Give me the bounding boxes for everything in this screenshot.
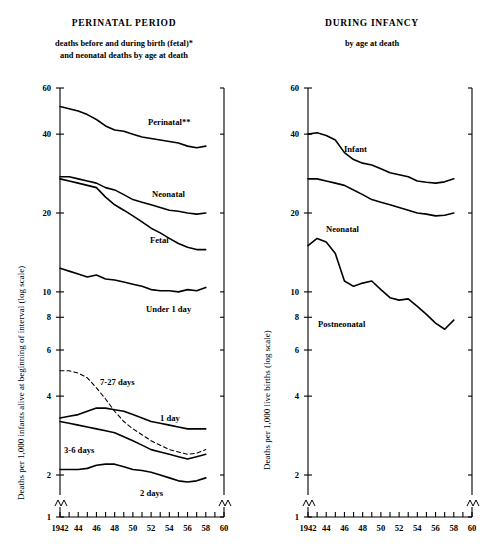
y-tick-label: 10	[290, 287, 299, 297]
y-tick-label: 2	[47, 470, 51, 480]
series-label: Neonatal	[326, 224, 360, 234]
y-tick-label: 6	[47, 345, 52, 355]
series-label: 7-27 days	[100, 377, 135, 387]
x-tick-label: 52	[395, 523, 404, 533]
x-tick-label: 48	[110, 523, 119, 533]
x-tick-label: 44	[74, 523, 83, 533]
y-tick-label: 1	[295, 512, 299, 522]
x-tick-label: 48	[358, 523, 367, 533]
series-line	[308, 238, 454, 329]
series-label: 3-6 days	[64, 445, 95, 455]
series-label: 1 day	[160, 413, 181, 423]
x-tick-label: 54	[413, 523, 422, 533]
y-tick-label: 2	[295, 470, 299, 480]
x-tick-label: 50	[129, 523, 138, 533]
x-tick-label: 58	[201, 523, 210, 533]
y-tick-label: 4	[47, 391, 52, 401]
series-label: 2 days	[140, 488, 164, 498]
series-line	[308, 133, 454, 183]
x-tick-label: 1942	[299, 523, 316, 533]
x-tick-label: 54	[165, 523, 174, 533]
x-tick-label: 56	[431, 523, 440, 533]
y-tick-label: 20	[290, 208, 299, 218]
y-tick-label: 10	[42, 287, 51, 297]
series-line	[60, 106, 206, 147]
chart-svg: 60402010864211942444648505254565860Perin…	[0, 0, 248, 558]
series-label: Infant	[344, 144, 367, 154]
series-line	[60, 268, 206, 292]
plot-area-infancy: 60402010864211942444648505254565860Infan…	[248, 0, 496, 558]
y-tick-label: 8	[47, 312, 52, 322]
x-tick-label: 50	[377, 523, 386, 533]
plot-area-perinatal: 60402010864211942444648505254565860Perin…	[0, 0, 248, 558]
series-label: Fetal	[150, 235, 169, 245]
axis-break-squiggle	[55, 500, 67, 506]
panel-perinatal: PERINATAL PERIOD deaths before and durin…	[0, 0, 248, 558]
x-tick-label: 1942	[51, 523, 68, 533]
y-tick-label: 40	[290, 129, 299, 139]
x-tick-label: 60	[220, 523, 229, 533]
x-tick-label: 60	[468, 523, 477, 533]
series-label: Under 1 day	[146, 304, 192, 314]
y-tick-label: 20	[42, 208, 51, 218]
x-tick-label: 46	[92, 523, 101, 533]
x-tick-label: 56	[183, 523, 192, 533]
panel-infancy: DURING INFANCY by age at death Deaths pe…	[248, 0, 496, 558]
y-tick-label: 1	[47, 512, 51, 522]
x-tick-label: 44	[322, 523, 331, 533]
y-tick-label: 4	[295, 391, 300, 401]
series-label: Postneonatal	[318, 319, 366, 329]
y-tick-label: 6	[295, 345, 300, 355]
y-tick-label: 8	[295, 312, 300, 322]
x-tick-label: 52	[147, 523, 156, 533]
series-line	[308, 179, 454, 216]
y-tick-label: 60	[42, 83, 51, 93]
chart-svg: 60402010864211942444648505254565860Infan…	[248, 0, 496, 558]
axis-break-squiggle	[303, 500, 315, 506]
axis-break-squiggle	[467, 500, 479, 506]
y-tick-label: 40	[42, 129, 51, 139]
series-label: Neonatal	[152, 189, 186, 199]
series-line	[60, 464, 206, 482]
y-tick-label: 60	[290, 83, 299, 93]
x-tick-label: 58	[449, 523, 458, 533]
axis-break-squiggle	[219, 500, 231, 506]
series-label: Perinatal**	[148, 117, 190, 127]
x-tick-label: 46	[340, 523, 349, 533]
